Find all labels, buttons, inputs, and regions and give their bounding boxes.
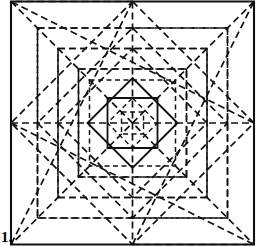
- pattern-diagram: [0, 0, 266, 246]
- drawing-group: [11, 2, 254, 245]
- figure-container: 1.: [0, 0, 266, 246]
- figure-number-label: 1.: [1, 230, 12, 245]
